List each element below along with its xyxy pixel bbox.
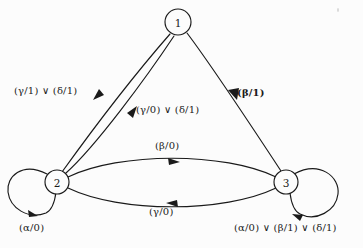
state-diagram-svg: 1 2 3 (0, 0, 363, 248)
edge-label-2-to-3: (β/0) (155, 140, 179, 151)
scan-artifact-speck (337, 8, 339, 12)
state-node-1[interactable]: 1 (165, 9, 191, 35)
self-loop-3-path (290, 169, 338, 217)
edge-label-3-to-2: (γ/0) (149, 206, 174, 217)
state-diagram-canvas: 1 2 3 (γ/1) ∨ (δ/1) (γ/0) ∨ (δ/1) (β/1) … (0, 0, 363, 248)
edge-label-2-to-1: (γ/0) ∨ (δ/1) (136, 104, 199, 115)
edge-3-to-2 (68, 188, 276, 207)
edge-1-to-2-path (62, 34, 170, 172)
self-loop-3-arrowhead (292, 214, 303, 221)
edge-1-to-2 (62, 34, 170, 172)
edge-2-to-3-arrowhead (168, 158, 180, 165)
edge-label-self-loop-3: (α/0) ∨ (β/1) ∨ (δ/1) (234, 222, 337, 233)
state-node-2-label: 2 (54, 177, 61, 189)
edge-1-to-2-arrowhead (93, 89, 104, 100)
edge-label-self-loop-2: (α/0) (19, 222, 44, 233)
edge-2-to-3 (68, 158, 276, 177)
edge-1-to-3-path (187, 33, 281, 171)
state-node-2[interactable]: 2 (45, 170, 69, 194)
edge-label-1-to-2: (γ/1) ∨ (δ/1) (14, 85, 77, 96)
state-node-3-label: 3 (283, 177, 290, 189)
state-node-1-label: 1 (175, 17, 182, 29)
state-node-3[interactable]: 3 (274, 170, 298, 194)
edge-1-to-3 (187, 33, 281, 171)
edge-label-1-to-3: (β/1) (237, 87, 265, 98)
self-loop-2-arrowhead (28, 210, 38, 217)
